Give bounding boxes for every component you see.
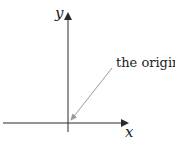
origin-pointer-arrow (71, 68, 112, 120)
origin-annotation: the origin (116, 55, 175, 70)
coordinate-axes-diagram: y x the origin (0, 0, 175, 148)
x-axis-label: x (125, 123, 134, 141)
y-axis-label: y (54, 4, 64, 22)
